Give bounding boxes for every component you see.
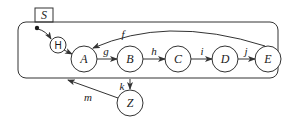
state-A: A (71, 46, 97, 72)
state-E-label: E (263, 52, 272, 66)
state-C: C (165, 46, 191, 72)
state-E: E (255, 46, 281, 72)
transition-Z-to-S (68, 80, 118, 98)
transition-label-f: f (121, 28, 126, 40)
state-C-label: C (174, 52, 183, 66)
state-D: D (212, 46, 238, 72)
state-A-label: A (79, 52, 88, 66)
transition-initial-to-H (38, 29, 51, 39)
superstate-tab: S (35, 8, 53, 22)
history-state: H (50, 37, 66, 53)
transition-label-g: g (103, 45, 109, 57)
transition-label-i: i (200, 45, 203, 57)
superstate-label: S (41, 8, 47, 22)
state-B: B (117, 46, 143, 72)
transition-label-j: j (242, 45, 247, 57)
transition-label-m: m (84, 91, 92, 103)
transition-label-h: h (151, 45, 157, 57)
transition-label-k: k (120, 80, 126, 92)
transition-H-to-A (64, 50, 72, 54)
state-D-label: D (220, 52, 230, 66)
state-B-label: B (126, 52, 134, 66)
history-label: H (54, 40, 61, 51)
state-Z-label: Z (127, 96, 134, 110)
statechart-diagram: S H A B C D E g h i j f k (0, 0, 308, 126)
transition-E-to-A (93, 31, 265, 48)
state-Z: Z (117, 90, 143, 116)
